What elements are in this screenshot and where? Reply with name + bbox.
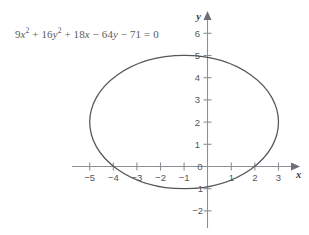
y-ticklabel--2: −2 — [192, 205, 203, 216]
y-axis-label: y — [194, 11, 201, 22]
x-axis-label: x — [295, 169, 301, 180]
y-axis-arrowhead — [204, 11, 212, 20]
origin-label: 0 — [197, 161, 202, 172]
y-ticklabel-4: 4 — [195, 72, 200, 83]
x-ticklabel--1: −1 — [179, 172, 190, 183]
y-ticklabel-3: 3 — [195, 94, 200, 105]
x-ticklabel--4: −4 — [108, 172, 119, 183]
x-ticklabel-2: 2 — [252, 172, 257, 183]
coordinate-plane: −5 −4 −3 −2 −1 0 1 2 3 6 5 4 3 2 1 −1 −2… — [0, 0, 309, 235]
x-ticklabel-3: 3 — [276, 172, 281, 183]
x-ticklabel--2: −2 — [155, 172, 166, 183]
ellipse-figure: 9x2 + 16y2 + 18x − 64y − 71 = 0 — [0, 0, 309, 235]
y-ticklabel-1: 1 — [195, 139, 200, 150]
x-ticklabel--5: −5 — [84, 172, 95, 183]
y-ticklabel-2: 2 — [195, 117, 200, 128]
y-ticklabel-6: 6 — [195, 28, 200, 39]
